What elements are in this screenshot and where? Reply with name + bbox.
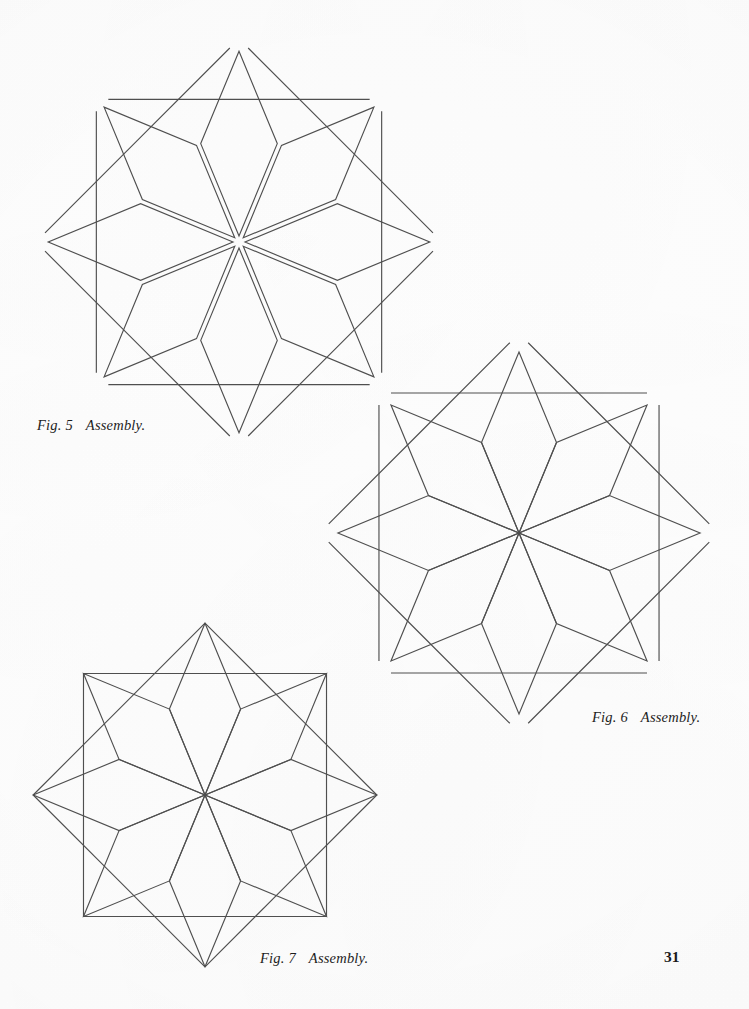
star-diamond-1 [482, 352, 557, 533]
caption-fig-5-text: Assembly. [86, 417, 145, 433]
star-diamond-3 [519, 496, 700, 571]
caption-fig-7: Fig. 7Assembly. [260, 950, 368, 967]
star-diamond-5 [169, 795, 240, 967]
star-diamond-2 [243, 107, 374, 238]
star-diamond-6 [104, 246, 235, 377]
fig-7-drawing [0, 590, 420, 1000]
star-diamond-5 [482, 533, 557, 714]
star-diamond-3 [205, 759, 377, 830]
star-diamond-7 [48, 204, 233, 281]
corner-square-3 [33, 795, 205, 967]
star-diamond-7 [338, 496, 519, 571]
caption-fig-6-label: Fig. 6 [592, 709, 628, 725]
star-diamond-3 [245, 204, 430, 281]
corner-square-2 [205, 795, 377, 967]
star-diamond-1 [169, 623, 240, 795]
star-diamond-8 [391, 405, 519, 533]
star-diamond-2 [205, 673, 327, 795]
caption-fig-6-text: Assembly. [641, 709, 700, 725]
star-diamond-2 [519, 405, 647, 533]
corner-square-1 [205, 623, 377, 795]
star-diamond-8 [83, 673, 205, 795]
caption-fig-6: Fig. 6Assembly. [592, 709, 700, 726]
star-diamond-1 [201, 51, 278, 236]
corner-square-1 [528, 343, 709, 524]
caption-fig-7-text: Assembly. [309, 950, 368, 966]
star-diamond-4 [205, 795, 327, 917]
corner-square-4 [33, 623, 205, 795]
star-diamond-8 [104, 107, 235, 238]
star-diamond-7 [33, 759, 205, 830]
star-diamond-6 [83, 795, 205, 917]
corner-square-2 [528, 542, 709, 723]
caption-fig-5: Fig. 5Assembly. [37, 417, 145, 434]
caption-fig-5-label: Fig. 5 [37, 417, 73, 433]
page-number: 31 [664, 948, 680, 966]
star-diamond-4 [519, 533, 647, 661]
corner-square-4 [329, 343, 510, 524]
caption-fig-7-label: Fig. 7 [260, 950, 296, 966]
star-diamond-5 [201, 248, 278, 433]
figure-fig-7 [0, 590, 420, 1000]
